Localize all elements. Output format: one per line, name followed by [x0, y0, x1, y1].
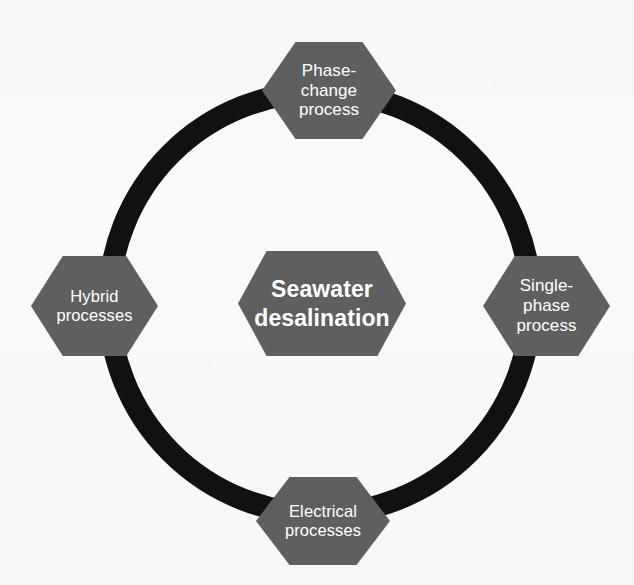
center-node-label: Seawater desalination — [254, 275, 389, 331]
node-electrical-processes[interactable]: Electrical processes — [256, 477, 390, 565]
cycle-diagram: Phase- change process Single- phase proc… — [0, 0, 634, 585]
node-single-phase-process[interactable]: Single- phase process — [483, 256, 610, 356]
node-label: Phase- change process — [299, 61, 359, 120]
node-phase-change-process[interactable]: Phase- change process — [262, 42, 396, 139]
node-label: Electrical processes — [285, 502, 361, 540]
node-label: Hybrid processes — [56, 287, 132, 325]
node-seawater-desalination[interactable]: Seawater desalination — [238, 251, 406, 356]
node-label: Single- phase process — [516, 276, 576, 335]
node-hybrid-processes[interactable]: Hybrid processes — [31, 256, 158, 356]
